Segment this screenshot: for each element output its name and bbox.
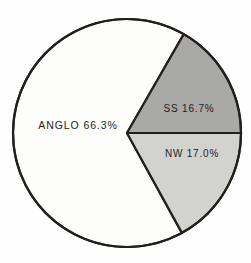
pie-chart-figure: ANGLO 66.3% SS 16.7% NW 17.0% — [0, 0, 251, 263]
pie-label-ss: SS 16.7% — [164, 103, 215, 114]
pie-label-anglo: ANGLO 66.3% — [38, 119, 117, 131]
pie-label-nw: NW 17.0% — [165, 148, 219, 159]
pie-chart-svg: ANGLO 66.3% SS 16.7% NW 17.0% — [0, 0, 251, 263]
